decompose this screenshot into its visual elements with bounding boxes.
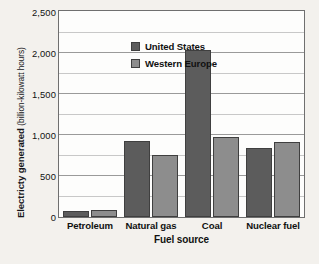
y-axis-tick-label: 1,500 xyxy=(32,88,56,99)
legend-item-united-states: United States xyxy=(131,39,217,54)
legend-label-western-europe: Western Europe xyxy=(145,58,217,69)
x-axis-tick-labels: PetroleumNatural gasCoalNuclear fuel xyxy=(58,220,305,234)
y-axis-tick-label: 2,000 xyxy=(32,47,56,58)
x-axis-tick-label: Petroleum xyxy=(67,220,113,231)
y-axis-tick-label: 500 xyxy=(40,170,56,181)
x-axis-tick-label: Coal xyxy=(202,220,222,231)
x-axis-tick-label: Natural gas xyxy=(125,220,176,231)
x-axis-tick-label: Nuclear fuel xyxy=(246,220,300,231)
bar-nuclear-fuel-western-europe xyxy=(274,142,300,217)
plot-area: United States Western Europe xyxy=(58,10,305,218)
y-axis-title-container: Electricty generated (billion-kilowatt h… xyxy=(0,0,20,230)
legend-swatch-icon-western-europe xyxy=(131,59,140,68)
legend-label-united-states: United States xyxy=(145,41,205,52)
legend-item-western-europe: Western Europe xyxy=(131,56,217,71)
x-axis-title: Fuel source xyxy=(58,234,305,245)
y-axis-tick-label: 2,500 xyxy=(32,6,56,17)
bar-coal-western-europe xyxy=(213,137,239,217)
bar-petroleum-western-europe xyxy=(91,210,117,217)
y-axis-tick-label: 0 xyxy=(51,211,56,222)
bar-coal-united-states xyxy=(185,50,211,217)
legend: United States Western Europe xyxy=(131,39,217,73)
y-axis-tick-labels: 2,5002,0001,5001,0005000 xyxy=(18,0,56,230)
y-axis-tick-label: 1,000 xyxy=(32,129,56,140)
bar-chart: Electricty generated (billion-kilowatt h… xyxy=(0,0,319,264)
bar-natural-gas-united-states xyxy=(124,141,150,217)
bar-nuclear-fuel-united-states xyxy=(246,148,272,217)
bar-natural-gas-western-europe xyxy=(152,155,178,217)
legend-swatch-icon-united-states xyxy=(131,42,140,51)
bar-petroleum-united-states xyxy=(63,211,89,217)
